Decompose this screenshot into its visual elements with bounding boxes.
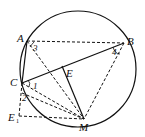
label-E1: E xyxy=(7,111,15,123)
circle xyxy=(20,11,136,127)
geometry-diagram: A B C E M E 1 3 4 1 2 xyxy=(0,0,145,137)
label-M: M xyxy=(78,121,89,133)
angle-label-1: 1 xyxy=(33,81,38,91)
segment-BM xyxy=(84,43,124,119)
angle-label-2: 2 xyxy=(22,93,27,103)
segment-CM xyxy=(22,83,84,119)
angle-label-4: 4 xyxy=(112,47,117,57)
segment-E1M xyxy=(19,116,84,119)
label-B: B xyxy=(127,35,134,47)
label-E: E xyxy=(65,67,73,79)
label-A: A xyxy=(16,32,24,44)
angle-label-3: 3 xyxy=(32,43,38,53)
segment-AB xyxy=(27,41,124,43)
label-C: C xyxy=(10,76,18,88)
label-E1-subscript: 1 xyxy=(16,118,19,124)
